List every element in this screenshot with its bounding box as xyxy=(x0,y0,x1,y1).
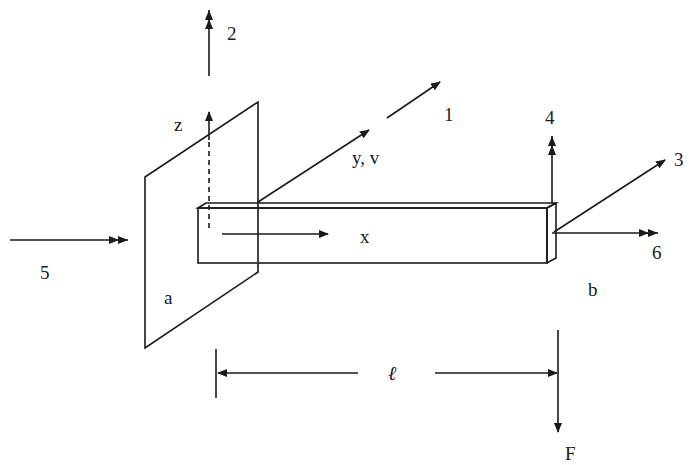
dof-4: 4 xyxy=(545,107,555,203)
dof-1-arrow xyxy=(387,82,440,118)
x-axis-label: x xyxy=(360,226,370,247)
end-a-label: a xyxy=(164,287,173,308)
dof-6-label: 6 xyxy=(652,242,662,263)
plate-outline xyxy=(145,102,258,348)
dof-1-label: 1 xyxy=(444,104,454,125)
y-axis-label: y, v xyxy=(352,147,380,168)
z-axis-label: z xyxy=(174,114,182,135)
length-label: ℓ xyxy=(388,362,397,384)
force-label: F xyxy=(565,443,576,464)
z-axis: z xyxy=(174,112,209,228)
cantilever-diagram: z 2 y, v 1 x 5 a 4 3 6 b xyxy=(0,0,689,465)
dof-3-arrow xyxy=(554,160,665,232)
support-plate xyxy=(145,102,258,348)
diagram-canvas: z 2 y, v 1 x 5 a 4 3 6 b xyxy=(0,0,689,465)
end-b-label: b xyxy=(588,279,598,300)
y-axis: y, v xyxy=(258,130,380,202)
force-f: F xyxy=(558,330,576,464)
dof-3: 3 xyxy=(554,149,684,232)
dof-5: 5 xyxy=(10,240,128,283)
length-dimension: ℓ xyxy=(216,349,557,398)
dof-4-label: 4 xyxy=(545,107,555,128)
dof-3-label: 3 xyxy=(674,149,684,170)
dof-6: 6 xyxy=(552,233,662,263)
dof-1: 1 xyxy=(387,82,454,125)
beam xyxy=(198,203,556,263)
beam-top-face xyxy=(198,203,556,208)
dof-2: 2 xyxy=(209,10,237,76)
dof-2-label: 2 xyxy=(227,23,237,44)
dof-5-label: 5 xyxy=(40,262,50,283)
x-axis: x xyxy=(222,226,370,247)
beam-front-face xyxy=(198,208,547,263)
